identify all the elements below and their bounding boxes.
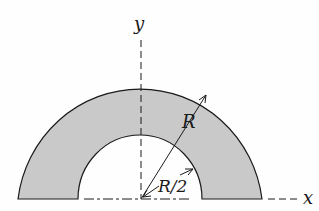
outer-radius-label: R [181, 111, 196, 132]
inner-radius-label: R/2 [157, 176, 187, 196]
outer-radius-arrowhead-icon [199, 95, 206, 103]
x-axis-label: x [303, 187, 313, 208]
half-annulus-diagram: y x R R/2 [0, 0, 319, 211]
y-axis-label: y [133, 13, 145, 34]
half-annulus-shape [18, 89, 262, 199]
